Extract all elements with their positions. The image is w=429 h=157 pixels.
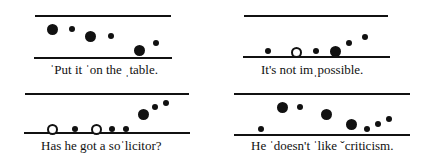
unstressed-dot-icon <box>69 26 75 32</box>
unstressed-dot-icon <box>153 40 159 46</box>
unstressed-dot-icon <box>362 34 368 40</box>
stressed-dot-icon <box>321 109 332 120</box>
unstressed-dot-icon <box>313 48 319 54</box>
pitch-top-line <box>234 93 410 95</box>
stressed-dot-icon <box>134 45 145 56</box>
caption: ˈPut it ˈon the ˌtable. <box>50 63 158 77</box>
unstressed-dot-icon <box>123 126 129 132</box>
unstressed-dot-icon <box>72 126 78 132</box>
unstressed-dot-icon <box>364 126 370 132</box>
stressed-dot-icon <box>346 119 357 130</box>
unstressed-dot-icon <box>265 48 271 54</box>
unstressed-dot-icon <box>346 40 352 46</box>
panel-he-doesnt-like-criticism: He ˈdoesn't ˈlike ˇcriticism. <box>0 0 429 157</box>
unstressed-dot-icon <box>152 104 158 110</box>
pitch-top-line <box>35 15 171 17</box>
panel-its-not-impossible: It's not imˌpossible. <box>0 0 429 157</box>
caption: It's not imˌpossible. <box>261 63 363 77</box>
stressed-dot-icon <box>47 24 58 35</box>
pitch-top-line <box>244 15 388 17</box>
unstressed-dot-icon <box>163 100 169 106</box>
open-circle-icon <box>47 124 58 135</box>
panel-put-it-on-the-table: ˈPut it ˈon the ˌtable. <box>0 0 429 157</box>
pitch-bottom-line <box>243 56 390 58</box>
unstressed-dot-icon <box>258 126 264 132</box>
unstressed-dot-icon <box>108 33 114 39</box>
stressed-dot-icon <box>330 46 341 57</box>
pitch-bottom-line <box>234 134 410 136</box>
stressed-dot-icon <box>277 102 288 113</box>
open-circle-icon <box>291 47 302 58</box>
stressed-dot-icon <box>138 109 149 120</box>
panel-has-he-got-a-solicitor: Has he got a soˈlicitor? <box>0 0 429 157</box>
unstressed-dot-icon <box>386 116 392 122</box>
stressed-dot-icon <box>85 31 96 42</box>
open-circle-icon <box>91 124 102 135</box>
unstressed-dot-icon <box>109 126 115 132</box>
pitch-top-line <box>25 93 189 95</box>
pitch-bottom-line <box>24 132 190 134</box>
caption: He ˈdoesn't ˈlike ˇcriticism. <box>251 139 393 153</box>
unstressed-dot-icon <box>375 121 381 127</box>
unstressed-dot-icon <box>297 104 303 110</box>
pitch-bottom-line <box>34 57 172 59</box>
caption: Has he got a soˈlicitor? <box>41 139 162 153</box>
